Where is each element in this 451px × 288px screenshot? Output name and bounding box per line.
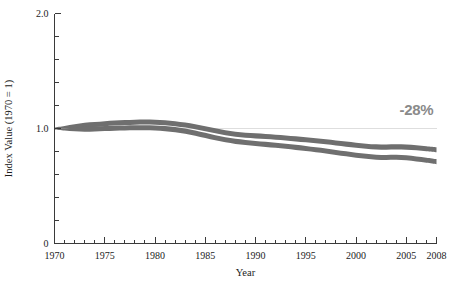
x-tick-label: 1980 — [145, 250, 165, 261]
x-tick-label: 1970 — [45, 250, 65, 261]
annotations-group: -28% — [399, 101, 433, 118]
x-tick-label: 1975 — [95, 250, 115, 261]
y-axis-title: Index Value (1970 = 1) — [3, 79, 15, 177]
data-band-group — [55, 120, 437, 165]
chart-container: 01.02.0197019751980198519901995200020052… — [0, 0, 451, 288]
x-tick-label: 2005 — [396, 250, 416, 261]
x-tick-label: 1990 — [246, 250, 266, 261]
y-tick-label: 2.0 — [36, 8, 49, 19]
series-band-upper — [55, 120, 437, 153]
x-tick-label: 2000 — [346, 250, 366, 261]
y-tick-label: 1.0 — [36, 123, 49, 134]
index-value-area-chart: 01.02.0197019751980198519901995200020052… — [0, 0, 451, 288]
x-tick-label: 2008 — [427, 250, 447, 261]
x-tick-label: 1995 — [296, 250, 316, 261]
x-axis-title: Year — [236, 267, 256, 278]
x-tick-label: 1985 — [195, 250, 215, 261]
change-annotation: -28% — [399, 101, 433, 118]
y-tick-label: 0 — [44, 238, 49, 249]
